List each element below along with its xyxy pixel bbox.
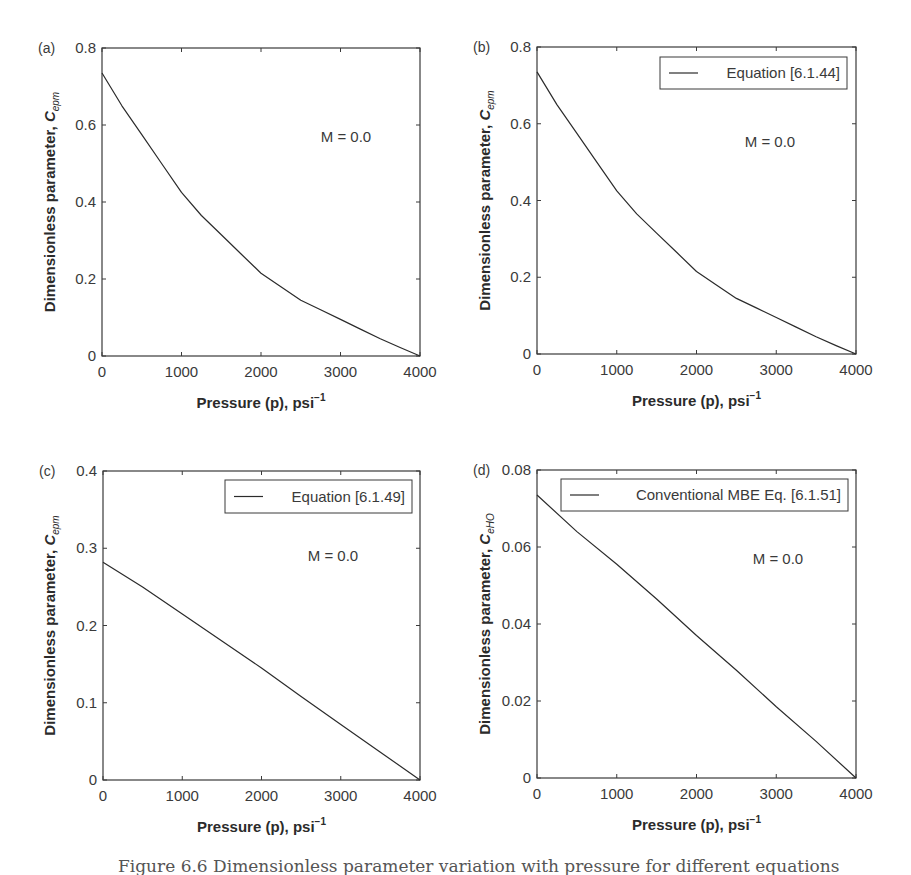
y-tick-label: 0.06: [502, 538, 531, 555]
x-tick-label: 0: [533, 785, 541, 802]
x-tick-label: 4000: [403, 363, 436, 380]
x-tick-label: 1000: [600, 785, 633, 802]
y-tick-label: 0.3: [76, 539, 97, 556]
y-tick-label: 0.4: [510, 192, 531, 209]
m-value-annotation: M = 0.0: [745, 133, 795, 150]
x-tick-label: 4000: [839, 785, 872, 802]
y-tick-label: 0.8: [75, 39, 96, 56]
m-value-annotation: M = 0.0: [321, 128, 371, 145]
x-axis-title: Pressure (p), psi−1: [197, 816, 326, 835]
legend: Conventional MBE Eq. [6.1.51]: [561, 479, 848, 511]
y-tick-label: 0.4: [75, 193, 96, 210]
x-tick-label: 3000: [324, 787, 357, 804]
y-axis-title: Dimensionless parameter, Cepm: [41, 515, 61, 735]
x-tick-label: 3000: [760, 785, 793, 802]
panel-letter: (a): [38, 40, 55, 56]
y-tick-label: 0.08: [502, 461, 531, 478]
legend-label: Conventional MBE Eq. [6.1.51]: [636, 486, 841, 503]
y-axis-title: Dimensionless parameter, CeHO: [476, 513, 496, 735]
x-tick-label: 1000: [600, 361, 633, 378]
x-tick-label: 4000: [839, 361, 872, 378]
legend-label: Equation [6.1.49]: [292, 488, 405, 505]
chart-c: 0100020003000400000.10.20.30.4(c)Pressur…: [39, 462, 437, 835]
plot-frame: [537, 47, 856, 354]
x-tick-label: 3000: [324, 363, 357, 380]
y-tick-label: 0.02: [502, 692, 531, 709]
m-value-annotation: M = 0.0: [753, 550, 803, 567]
data-line: [102, 73, 420, 356]
data-line: [103, 562, 420, 780]
y-tick-label: 0.2: [76, 617, 97, 634]
legend: Equation [6.1.49]: [225, 480, 412, 513]
y-axis-title: Dimensionless parameter, Cepm: [476, 90, 496, 310]
figure-canvas: 0100020003000400000.20.40.60.8(a)Pressur…: [0, 0, 911, 875]
y-tick-label: 0.04: [502, 615, 531, 632]
x-axis-title: Pressure (p), psi−1: [632, 390, 761, 409]
y-tick-label: 0: [89, 771, 97, 788]
y-tick-label: 0: [523, 769, 531, 786]
panel-letter: (b): [473, 39, 490, 55]
x-tick-label: 3000: [760, 361, 793, 378]
y-tick-label: 0: [88, 347, 96, 364]
x-tick-label: 2000: [244, 363, 277, 380]
panel-letter: (c): [39, 463, 55, 479]
legend-label: Equation [6.1.44]: [727, 64, 840, 81]
chart-a: 0100020003000400000.20.40.60.8(a)Pressur…: [38, 39, 437, 411]
x-tick-label: 2000: [680, 785, 713, 802]
y-tick-label: 0.4: [76, 462, 97, 479]
x-tick-label: 2000: [245, 787, 278, 804]
panel-letter: (d): [473, 462, 490, 478]
x-tick-label: 2000: [680, 361, 713, 378]
y-tick-label: 0.1: [76, 694, 97, 711]
data-line: [537, 72, 856, 354]
y-tick-label: 0.6: [75, 116, 96, 133]
plot-frame: [537, 470, 856, 778]
x-tick-label: 1000: [166, 787, 199, 804]
x-tick-label: 0: [99, 787, 107, 804]
y-tick-label: 0.8: [510, 38, 531, 55]
y-axis-title: Dimensionless parameter, Cepm: [41, 92, 61, 312]
x-axis-title: Pressure (p), psi−1: [197, 392, 326, 411]
x-axis-title: Pressure (p), psi−1: [632, 814, 761, 833]
x-tick-label: 0: [533, 361, 541, 378]
m-value-annotation: M = 0.0: [308, 547, 358, 564]
x-tick-label: 1000: [165, 363, 198, 380]
legend: Equation [6.1.44]: [660, 57, 847, 89]
y-tick-label: 0: [523, 345, 531, 362]
data-line: [537, 495, 856, 778]
x-tick-label: 4000: [403, 787, 436, 804]
y-tick-label: 0.2: [75, 270, 96, 287]
x-tick-label: 0: [98, 363, 106, 380]
plot-frame: [103, 471, 420, 780]
y-tick-label: 0.2: [510, 268, 531, 285]
y-tick-label: 0.6: [510, 115, 531, 132]
chart-d: 0100020003000400000.020.040.060.08(d)Pre…: [473, 461, 873, 833]
chart-b: 0100020003000400000.20.40.60.8(b)Pressur…: [473, 38, 873, 409]
plot-frame: [102, 48, 420, 356]
